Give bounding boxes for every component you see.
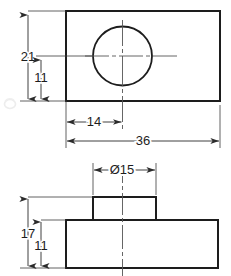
front-view-diameter-dimension: Ø15	[93, 162, 156, 195]
cad-drawing-svg: 21 11 14 36	[0, 0, 231, 276]
front-view-boss-outline	[93, 197, 156, 220]
dim-label-21: 21	[21, 49, 35, 64]
front-view-vertical-dimensions: 17 11	[20, 197, 92, 268]
dim-label-11-front: 11	[34, 238, 48, 253]
dim-label-diameter-15: Ø15	[110, 162, 135, 177]
front-view-base-outline	[66, 220, 218, 268]
faint-smudge-artifact	[5, 99, 16, 109]
front-view-group	[66, 163, 218, 276]
dim-label-36: 36	[136, 133, 150, 148]
dim-label-14: 14	[87, 114, 101, 129]
technical-drawing-canvas: 21 11 14 36	[0, 0, 231, 276]
top-view-horizontal-dimensions: 14 36	[66, 101, 220, 148]
top-view-vertical-dimensions: 21 11	[20, 11, 92, 101]
dim-label-17: 17	[21, 226, 35, 241]
dim-label-11-top: 11	[34, 70, 48, 85]
